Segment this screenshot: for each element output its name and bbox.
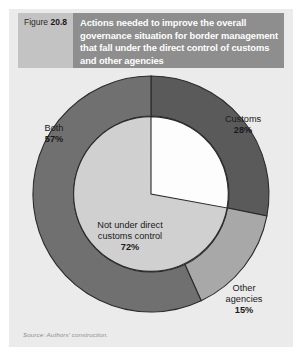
figure-number-prefix: Figure — [24, 17, 48, 27]
label-center-line2: customs control — [71, 231, 189, 242]
label-center-line1: Not under direct — [71, 220, 189, 231]
figure-number-badge: Figure 20.8 — [18, 13, 73, 68]
label-other-agencies-name2: agencies — [208, 294, 280, 305]
label-both-name: Both — [23, 123, 85, 134]
label-center: Not under direct customs control 72% — [71, 220, 189, 253]
figure-source: Source: Authors' construction. — [23, 331, 108, 338]
donut-chart: Both 57% Customs 28% Other agencies 15% … — [9, 68, 293, 318]
label-other-agencies: Other agencies 15% — [208, 283, 280, 316]
figure-number-value: 20.8 — [50, 17, 67, 27]
label-customs-name: Customs — [209, 114, 277, 125]
donut-chart-svg — [23, 74, 279, 318]
figure-header: Figure 20.8 Actions needed to improve th… — [18, 13, 284, 68]
label-center-value: 72% — [71, 242, 189, 253]
label-other-agencies-name: Other — [208, 283, 280, 294]
label-customs: Customs 28% — [209, 114, 277, 136]
figure-panel: Figure 20.8 Actions needed to improve th… — [9, 9, 293, 347]
label-other-agencies-value: 15% — [208, 305, 280, 316]
label-both: Both 57% — [23, 123, 85, 145]
label-both-value: 57% — [23, 134, 85, 145]
label-customs-value: 28% — [209, 125, 277, 136]
figure-title: Actions needed to improve the overall go… — [73, 13, 284, 68]
